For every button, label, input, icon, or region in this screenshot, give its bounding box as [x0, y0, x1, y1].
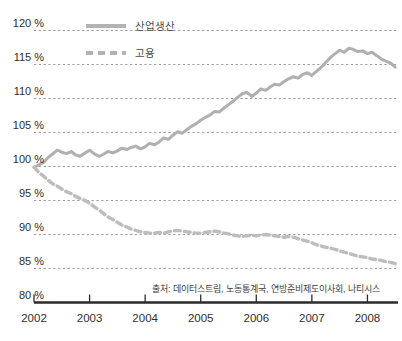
x-axis-tick-label: 2004 — [123, 312, 167, 324]
y-axis-tick-label: 100 % — [0, 153, 44, 165]
x-axis-tick-label: 2006 — [234, 312, 278, 324]
y-axis-tick-label: 90 % — [0, 221, 44, 233]
x-axis-tick-label: 2005 — [179, 312, 223, 324]
source-note: 출처: 데이터스트림, 노동통계국, 연방준비제도이사회, 나티시스 — [152, 282, 380, 295]
series-line-industrial-production — [34, 48, 395, 167]
legend-label-industrial-production: 산업생산 — [135, 18, 175, 33]
x-axis-tick-label: 2002 — [12, 312, 56, 324]
y-axis-tick-label: 120 % — [0, 17, 44, 29]
y-axis-tick-label: 110 % — [0, 85, 44, 97]
data-series — [34, 48, 395, 264]
legend-label-employment: 고용 — [135, 45, 155, 60]
legend-swatch-employment — [86, 51, 126, 55]
y-axis-tick-label: 105 % — [0, 119, 44, 131]
y-axis-tick-label: 95 % — [0, 187, 44, 199]
y-axis-tick-label: 80 % — [0, 289, 44, 301]
x-axis-tick-label: 2007 — [290, 312, 334, 324]
x-axis-tick-label: 2008 — [345, 312, 389, 324]
legend-swatch-industrial-production — [86, 24, 126, 28]
chart-container: 80 %85 %90 %95 %100 %105 %110 %115 %120 … — [0, 0, 402, 341]
y-axis-tick-label: 115 % — [0, 51, 44, 63]
x-axis-tick-label: 2003 — [68, 312, 112, 324]
y-axis-tick-label: 85 % — [0, 255, 44, 267]
series-line-employment — [34, 167, 395, 264]
